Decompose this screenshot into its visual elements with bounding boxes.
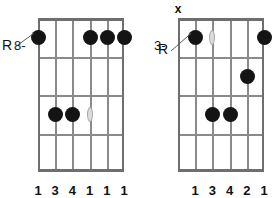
chord-diagram-left: 1341118-R [0, 0, 138, 198]
chord-diagram-right: x134213-R [138, 0, 276, 198]
root-leader-line [0, 0, 138, 198]
root-leader-line [138, 0, 276, 198]
chord-chart-stage: 1341118-R x134213-R [0, 0, 276, 198]
